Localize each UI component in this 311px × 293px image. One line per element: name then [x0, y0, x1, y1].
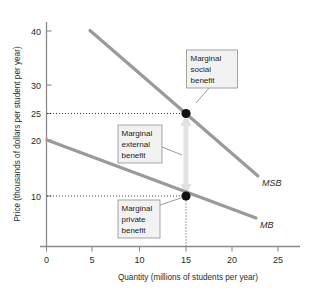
msb-callout-leader	[196, 88, 209, 103]
y-axis-title: Price (thousands of dollars per student …	[13, 46, 22, 221]
meb-callout-leader	[162, 147, 182, 155]
mpb-callout-line-3: benefit	[122, 226, 147, 235]
msb-callout-line-2: social	[191, 65, 212, 74]
y-tick-label-20: 20	[31, 136, 41, 146]
mpb-callout-line-1: Marginal	[122, 204, 153, 213]
mpb-callout-line-2: private	[122, 215, 147, 224]
guide-lines	[47, 114, 186, 247]
msb-callout-line-1: Marginal	[191, 54, 222, 63]
meb-callout-line-1: Marginal	[122, 129, 153, 138]
x-axis-title: Quantity (millions of students per year)	[118, 273, 258, 282]
marginal-private-benefit-callout: Marginal private benefit	[118, 198, 181, 238]
x-tick-label-20: 20	[227, 255, 237, 265]
y-tick-label-10: 10	[31, 192, 41, 202]
msb-callout-line-3: benefit	[191, 76, 216, 85]
meb-callout-line-3: benefit	[122, 151, 147, 160]
x-tick-label-25: 25	[273, 255, 283, 265]
mpb-callout-leader	[160, 198, 181, 205]
marginal-external-benefit-callout: Marginal external benefit	[118, 125, 182, 163]
arrow-up-head	[181, 114, 192, 196]
axes	[40, 22, 300, 247]
marginal-external-benefit-arrow	[181, 114, 192, 196]
marginal-social-benefit-point	[181, 109, 190, 118]
mb-curve-label: MB	[260, 220, 274, 230]
x-tick-label-0: 0	[44, 255, 49, 265]
y-tick-label-30: 30	[31, 81, 41, 91]
marginal-private-benefit-point	[181, 191, 190, 200]
y-tick-label-40: 40	[31, 27, 41, 37]
marginal-social-benefit-callout: Marginal social benefit	[187, 50, 238, 103]
x-tick-label-15: 15	[181, 255, 191, 265]
y-tick-label-25: 25	[31, 109, 41, 119]
x-tick-marks	[47, 247, 279, 252]
x-tick-label-10: 10	[134, 255, 144, 265]
y-tick-labels: 40 30 25 20 10	[31, 27, 41, 202]
x-tick-labels: 0 5 10 15 20 25	[44, 255, 283, 265]
economics-chart: 40 30 25 20 10 0 5 10 15 20 25 Price (th…	[0, 0, 311, 293]
msb-curve-label: MSB	[262, 178, 282, 188]
x-tick-label-5: 5	[89, 255, 94, 265]
meb-callout-line-2: external	[122, 140, 151, 149]
